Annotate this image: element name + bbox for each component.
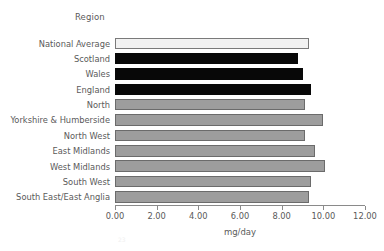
x-tick-label: 8.00 <box>272 211 290 221</box>
category-label-north: North <box>87 101 110 109</box>
x-tick-label: 6.00 <box>231 211 249 221</box>
x-tick-label: 2.00 <box>147 211 165 221</box>
x-tick-mark <box>365 206 366 210</box>
bar-east-midlands <box>115 145 315 156</box>
x-tick-label: 10.00 <box>311 211 335 221</box>
x-axis-title: mg/day <box>115 227 365 237</box>
bar-england <box>115 84 311 95</box>
bar-wales <box>115 68 303 79</box>
bar-row: North <box>115 97 365 112</box>
page-number-artifact: 23 <box>118 236 126 243</box>
y-axis-title: Region <box>75 12 105 22</box>
bar-row: National Average <box>115 36 365 51</box>
bar-row: England <box>115 82 365 97</box>
x-tick-label: 4.00 <box>189 211 207 221</box>
x-tick-mark <box>115 206 116 210</box>
bar-row: South East/East Anglia <box>115 190 365 205</box>
x-tick-mark <box>240 206 241 210</box>
bar-row: South West <box>115 174 365 189</box>
x-tick-label: 0.00 <box>106 211 124 221</box>
bar-row: West Midlands <box>115 159 365 174</box>
category-label-england: England <box>76 86 110 94</box>
category-label-east-midlands: East Midlands <box>52 147 110 155</box>
bar-north <box>115 99 305 110</box>
x-tick-mark <box>157 206 158 210</box>
plot-area: National AverageScotlandWalesEnglandNort… <box>115 36 365 205</box>
bar-row: Scotland <box>115 51 365 66</box>
bar-row: East Midlands <box>115 144 365 159</box>
bar-national-average <box>115 38 309 49</box>
bar-scotland <box>115 53 298 64</box>
bar-west-midlands <box>115 160 325 171</box>
bar-south-west <box>115 176 311 187</box>
category-label-west-midlands: West Midlands <box>50 162 110 170</box>
x-tick-mark <box>282 206 283 210</box>
bar-chart-figure: Region National AverageScotlandWalesEngl… <box>0 0 384 251</box>
x-tick-mark <box>198 206 199 210</box>
bar-north-west <box>115 130 305 141</box>
category-label-yorkshire-humberside: Yorkshire & Humberside <box>10 116 110 124</box>
category-label-south-east-east-anglia: South East/East Anglia <box>16 193 110 201</box>
bar-row: Yorkshire & Humberside <box>115 113 365 128</box>
category-label-national-average: National Average <box>39 40 110 48</box>
x-tick-label: 12.00 <box>353 211 377 221</box>
bar-row: Wales <box>115 67 365 82</box>
x-tick-mark <box>323 206 324 210</box>
category-label-scotland: Scotland <box>74 55 110 63</box>
bar-yorkshire-humberside <box>115 114 323 125</box>
category-label-north-west: North West <box>64 132 110 140</box>
category-label-wales: Wales <box>86 70 111 78</box>
bar-south-east-east-anglia <box>115 191 309 202</box>
category-label-south-west: South West <box>63 178 110 186</box>
bar-row: North West <box>115 128 365 143</box>
